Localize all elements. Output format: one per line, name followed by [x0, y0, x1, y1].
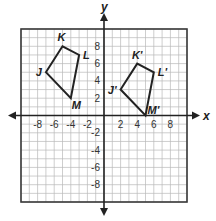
y-tick-label: -2: [91, 127, 100, 138]
vertex-label: L': [158, 66, 168, 78]
x-axis-left-arrow-icon: [8, 112, 16, 120]
y-tick-label: -4: [91, 145, 100, 156]
vertex-label: K: [58, 31, 67, 43]
image-vertex-labels: J'K'L'M': [108, 49, 168, 116]
x-tick-label: -6: [50, 119, 59, 130]
y-tick-label: 6: [94, 58, 100, 69]
vertex-label: M': [148, 104, 160, 116]
x-tick-label: -4: [66, 119, 75, 130]
y-tick-label: -8: [91, 179, 100, 190]
vertex-label: M: [72, 99, 82, 111]
x-axis-right-arrow-icon: [192, 112, 200, 120]
x-tick-label: 2: [118, 119, 124, 130]
y-axis-label: y: [100, 0, 109, 14]
y-tick-label: 2: [94, 93, 100, 104]
y-tick-label: 4: [94, 75, 100, 86]
coordinate-plane-figure: x y -8-6-4-22468 8642-2-4-6-8 JKLM J'K'L…: [0, 0, 216, 221]
y-axis-down-arrow-icon: [100, 208, 108, 216]
vertex-label: L: [83, 49, 90, 61]
y-tick-label: -6: [91, 162, 100, 173]
vertex-label: J': [108, 84, 117, 96]
vertex-label: K': [132, 49, 143, 61]
coordinate-plane: x y -8-6-4-22468 8642-2-4-6-8 JKLM J'K'L…: [0, 0, 216, 221]
vertex-label: J: [36, 66, 43, 78]
x-tick-label: -8: [33, 119, 42, 130]
axes: x y: [8, 0, 211, 216]
x-tick-label: 6: [151, 119, 157, 130]
x-tick-label: 4: [134, 119, 140, 130]
x-axis-label: x: [202, 109, 211, 123]
preimage-vertex-labels: JKLM: [36, 31, 90, 111]
y-axis-up-arrow-icon: [100, 13, 108, 21]
y-tick-label: 8: [94, 41, 100, 52]
x-tick-label: 8: [168, 119, 174, 130]
